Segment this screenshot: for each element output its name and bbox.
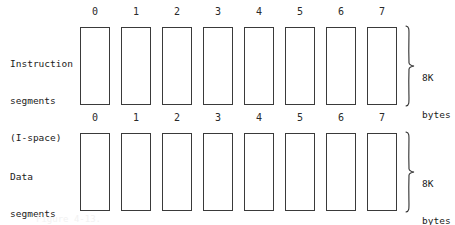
segment-number: 7 bbox=[367, 111, 397, 125]
segment-box bbox=[285, 27, 315, 105]
curly-brace-icon-data bbox=[404, 131, 418, 213]
segment-box bbox=[367, 27, 397, 105]
segment-box bbox=[244, 27, 274, 105]
row-label-line: Data bbox=[10, 171, 80, 183]
segment-number: 4 bbox=[244, 111, 274, 125]
figure-separate-i-and-d-space: Instruction segments (I-space) 0 1 2 3 4… bbox=[0, 0, 455, 225]
segment-box bbox=[326, 133, 356, 211]
row-label-line: (I-space) bbox=[10, 132, 80, 144]
size-annotation-line: bytes bbox=[422, 215, 455, 225]
segment-number: 3 bbox=[203, 5, 233, 19]
segment-box bbox=[244, 133, 274, 211]
segment-number: 6 bbox=[326, 5, 356, 19]
segment-number: 6 bbox=[326, 111, 356, 125]
segment-box bbox=[203, 27, 233, 105]
segment-number: 0 bbox=[80, 5, 110, 19]
segment-box bbox=[162, 133, 192, 211]
segment-box bbox=[121, 133, 151, 211]
segment-box bbox=[203, 133, 233, 211]
segment-number: 3 bbox=[203, 111, 233, 125]
row-label-line: segments bbox=[10, 95, 80, 107]
size-annotation-line: 8K bbox=[422, 178, 455, 190]
segment-number: 2 bbox=[162, 111, 192, 125]
segment-box bbox=[80, 133, 110, 211]
segment-number: 5 bbox=[285, 5, 315, 19]
segment-number: 4 bbox=[244, 5, 274, 19]
segment-box bbox=[80, 27, 110, 105]
size-annotation-line: 8K bbox=[422, 72, 455, 84]
segment-number: 1 bbox=[121, 5, 151, 19]
segment-number: 7 bbox=[367, 5, 397, 19]
segment-number: 1 bbox=[121, 111, 151, 125]
segment-box bbox=[285, 133, 315, 211]
segment-box bbox=[367, 133, 397, 211]
size-annotation-data: 8K bytes bbox=[422, 154, 455, 225]
figure-caption: Figure 4-13. bbox=[36, 214, 101, 225]
size-annotation-line: bytes bbox=[422, 109, 455, 121]
segment-box bbox=[326, 27, 356, 105]
segment-number: 2 bbox=[162, 5, 192, 19]
size-annotation-instruction: 8K bytes bbox=[422, 48, 455, 146]
curly-brace-icon-instruction bbox=[404, 25, 418, 107]
segment-number: 5 bbox=[285, 111, 315, 125]
segment-number: 0 bbox=[80, 111, 110, 125]
segment-box bbox=[162, 27, 192, 105]
segment-box bbox=[121, 27, 151, 105]
row-label-line: Instruction bbox=[10, 58, 80, 70]
